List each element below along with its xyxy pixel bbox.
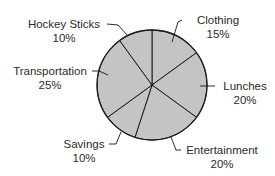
label-savings: Savings [64, 138, 105, 150]
value-lunches: 20% [233, 94, 256, 106]
leader-entertainment [171, 137, 181, 150]
label-entertainment: Entertainment [186, 144, 258, 156]
label-lunches: Lunches [223, 80, 267, 92]
label-hockey-sticks: Hockey Sticks [28, 18, 100, 30]
label-clothing: Clothing [197, 14, 239, 26]
leader-hockey-sticks [107, 24, 128, 36]
value-entertainment: 20% [210, 158, 233, 170]
value-savings: 10% [72, 152, 95, 164]
pie-chart: Clothing 15% Lunches 20% Entertainment 2… [0, 0, 275, 176]
leader-savings [109, 132, 121, 144]
value-clothing: 15% [206, 28, 229, 40]
pie-center-dot [151, 84, 154, 87]
value-transportation: 25% [38, 79, 61, 91]
value-hockey-sticks: 10% [52, 32, 75, 44]
label-transportation: Transportation [13, 65, 87, 77]
